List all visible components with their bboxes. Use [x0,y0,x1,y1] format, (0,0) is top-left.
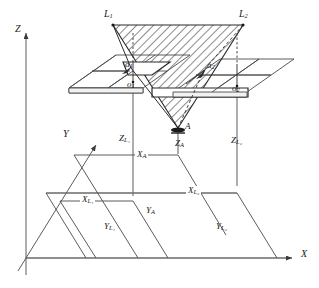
label-z-a: ZA [175,139,184,149]
label-y-a: YA [146,206,155,216]
label-y-l1: YL₁ [104,222,115,232]
label-axis-x: X [301,249,307,259]
label-y-l2: YL₂ [216,222,227,232]
label-x-l2: XL₂ [186,186,201,196]
label-L2: L2 [239,9,248,20]
label-axis-y: Y [63,129,69,139]
label-a2: a2 [207,61,215,71]
y-line-l2 [237,193,277,258]
label-x-l1: XL₁ [80,195,95,205]
label-axis-z: Z [15,24,21,34]
marker-L1 [111,23,114,26]
label-x-a: XA [135,150,148,160]
label-z-l2: ZL₂ [231,136,242,146]
label-A: A [185,122,191,131]
label-o2: o2 [232,84,240,94]
marker-L2 [241,23,244,26]
label-o1: o1 [127,80,135,90]
marker-A-ground [171,128,185,133]
label-L1: L1 [104,9,113,20]
y-line-from-x-a [74,155,138,258]
label-a1: a1 [125,60,133,70]
y-axis-stub [18,258,26,271]
photogrammetry-diagram: L1 L2 A o1 o2 a1 a2 Z Y X ZL₁ ZA ZL₂ XA … [0,0,319,288]
diagram-canvas [0,0,319,288]
ground-projection-network [46,88,277,258]
label-z-l1: ZL₁ [119,134,130,144]
y-line-from-x-l1 [60,201,96,258]
